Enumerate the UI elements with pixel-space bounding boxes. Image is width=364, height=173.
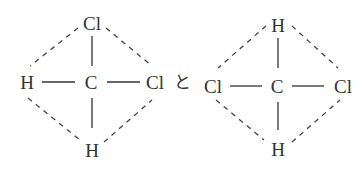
atom-bottom: H [85, 140, 99, 161]
dashed-edge [104, 100, 152, 142]
dichloromethane-diagram: Cl H C Cl H と H Cl C Cl H [0, 0, 364, 173]
dashed-edge [216, 100, 264, 140]
atom-left: H [20, 72, 34, 93]
atom-bottom: H [271, 139, 285, 160]
connector-text: と [174, 72, 191, 92]
atom-center: C [85, 72, 98, 93]
left-molecule: Cl H C Cl H [20, 13, 164, 161]
atom-right: Cl [334, 76, 352, 97]
atom-right: Cl [146, 72, 164, 93]
dashed-edge [106, 28, 152, 66]
atom-top: Cl [83, 13, 101, 34]
dashed-edge [28, 98, 80, 140]
atom-top: H [271, 15, 285, 36]
atom-center: C [271, 76, 284, 97]
atom-left: Cl [204, 76, 222, 97]
dashed-edge [218, 26, 266, 68]
dashed-edge [30, 28, 78, 66]
dashed-edge [292, 100, 340, 142]
right-molecule: H Cl C Cl H [204, 15, 352, 160]
dashed-edge [292, 26, 338, 68]
